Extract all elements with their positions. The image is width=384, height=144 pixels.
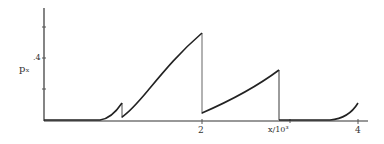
y-axis-label: pₓ	[19, 64, 30, 74]
chart-plot	[0, 0, 384, 144]
data-curve	[44, 33, 358, 120]
y-tick-label: .4	[33, 54, 41, 62]
x-tick-label-4: 4	[355, 126, 361, 135]
x-axis-label: x/10³	[268, 126, 289, 134]
x-tick-label-2: 2	[198, 126, 204, 135]
